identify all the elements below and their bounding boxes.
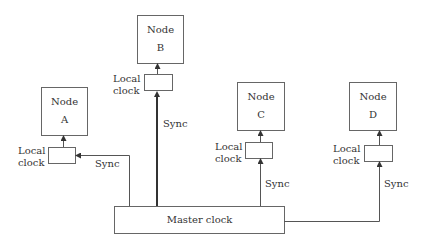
node-c: Node C [237,88,285,124]
node-b-title: Node [137,21,184,39]
node-c-title: Node [237,88,285,106]
local-clock-d-label: Local clock [333,143,360,167]
sync-line-d [284,164,380,222]
local-clock-a-label: Local clock [18,145,45,169]
local-clock-b-box [145,75,173,91]
sync-label-a: Sync [95,158,120,170]
local-clock-d-box [365,146,393,162]
node-a-id: A [41,111,88,129]
sync-label-d: Sync [384,178,409,190]
node-b: Node B [137,21,184,57]
node-a: Node A [41,93,88,129]
node-a-title: Node [41,93,88,111]
node-d-id: D [349,106,397,124]
sync-label-c: Sync [265,178,290,190]
node-b-id: B [137,39,184,57]
local-clock-b-label: Local clock [113,73,140,97]
local-clock-c-box [246,143,273,159]
local-clock-c-label: Local clock [215,141,242,165]
sync-label-b: Sync [163,118,188,130]
local-clock-a-box [49,148,76,164]
node-c-id: C [237,106,285,124]
node-d: Node D [349,88,397,124]
node-d-title: Node [349,88,397,106]
master-clock-label: Master clock [114,214,285,225]
clock-sync-diagram: Node A Node B Node C Node D Local clock … [0,0,421,248]
